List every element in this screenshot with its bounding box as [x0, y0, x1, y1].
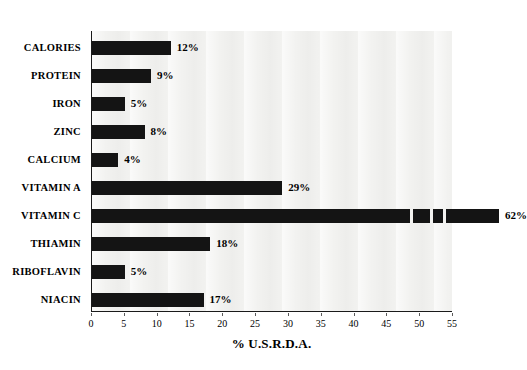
category-label: CALCIUM — [0, 153, 81, 167]
category-label: PROTEIN — [0, 69, 81, 83]
x-tick-mark — [288, 313, 289, 316]
bar-value-label: 12% — [177, 38, 199, 56]
x-tick-label: 10 — [144, 318, 170, 330]
x-tick-mark — [255, 313, 256, 316]
bar-value-label: 5% — [131, 262, 148, 280]
x-tick-label: 15 — [176, 318, 202, 330]
bar-value-label: 29% — [288, 178, 310, 196]
bar-value-label: 4% — [124, 150, 141, 168]
x-tick-label: 55 — [439, 318, 465, 330]
bar-value-label: 8% — [151, 122, 168, 140]
bar-value-label: 17% — [210, 290, 232, 308]
x-tick-label: 35 — [308, 318, 334, 330]
bar-value-label: 62% — [505, 206, 527, 224]
category-label: NIACIN — [0, 293, 81, 307]
x-tick-mark — [419, 313, 420, 316]
x-tick-mark — [321, 313, 322, 316]
x-tick-label: 20 — [209, 318, 235, 330]
x-axis: 0510152025303540455055 — [91, 313, 452, 335]
category-label: RIBOFLAVIN — [0, 265, 81, 279]
x-tick-label: 5 — [111, 318, 137, 330]
bar-value-labels: 12%9%5%8%4%29%62%18%5%17% — [91, 31, 484, 312]
bar-value-label: 9% — [157, 66, 174, 84]
x-axis-title: % U.S.R.D.A. — [91, 336, 452, 352]
x-tick-label: 30 — [275, 318, 301, 330]
category-label: ZINC — [0, 125, 81, 139]
x-tick-label: 0 — [78, 318, 104, 330]
x-tick-mark — [222, 313, 223, 316]
x-tick-mark — [189, 313, 190, 316]
x-tick-label: 45 — [373, 318, 399, 330]
x-tick-mark — [157, 313, 158, 316]
x-tick-mark — [354, 313, 355, 316]
x-tick-label: 50 — [406, 318, 432, 330]
x-tick-mark — [91, 313, 92, 316]
x-tick-label: 40 — [341, 318, 367, 330]
category-label: CALORIES — [0, 41, 81, 55]
x-tick-mark — [452, 313, 453, 316]
category-label: IRON — [0, 97, 81, 111]
x-tick-label: 25 — [242, 318, 268, 330]
bar-value-label: 5% — [131, 94, 148, 112]
category-axis-labels: CALORIESPROTEINIRONZINCCALCIUMVITAMIN AV… — [0, 31, 86, 312]
bar-value-label: 18% — [216, 234, 238, 252]
x-tick-mark — [386, 313, 387, 316]
category-label: THIAMIN — [0, 237, 81, 251]
category-label: VITAMIN C — [0, 209, 81, 223]
category-label: VITAMIN A — [0, 181, 81, 195]
x-tick-mark — [124, 313, 125, 316]
